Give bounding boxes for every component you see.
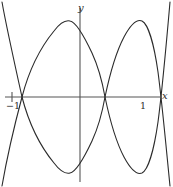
curve-upper-first bbox=[2, 2, 170, 186]
y-axis-label: y bbox=[78, 3, 84, 13]
math-figure: y x −1 1 bbox=[0, 0, 173, 187]
curve-lower-first bbox=[2, 2, 170, 186]
x-tick-label-one: 1 bbox=[140, 101, 146, 111]
x-tick-label-negative-one: −1 bbox=[6, 101, 20, 111]
x-axis-label: x bbox=[162, 91, 168, 101]
plot-canvas bbox=[0, 0, 173, 187]
